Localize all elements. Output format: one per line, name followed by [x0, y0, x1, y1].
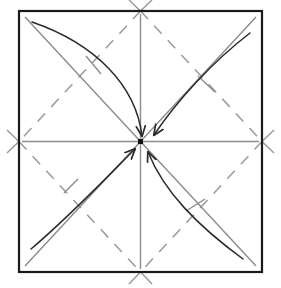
- mark-top-right: [141, 0, 153, 11]
- mark-bottom-left: [129, 272, 141, 284]
- mark-left-lower: [7, 142, 19, 154]
- crease-pattern-canvas: [0, 0, 281, 288]
- mark-left-upper: [7, 130, 19, 142]
- mark-right-lower: [262, 142, 274, 154]
- mark-bottom-right: [141, 272, 153, 284]
- center-point-marker: [138, 139, 143, 144]
- mark-top-left: [129, 0, 141, 11]
- origami-diagram: Square origami paper with diagonal and m…: [0, 0, 281, 288]
- mark-right-upper: [262, 130, 274, 142]
